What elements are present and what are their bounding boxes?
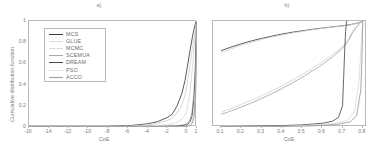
panel-b-xtick-3: 0.4	[277, 128, 284, 134]
panel-a-xlabel: CoE	[84, 136, 124, 142]
panel-a: a) Cumulative distribution function 0 0.…	[0, 0, 198, 157]
panel-a-ytick-5: 1	[14, 17, 26, 23]
legend-item-glue[interactable]: GLUE	[45, 38, 105, 45]
panel-a-xtick-6: -4	[144, 128, 149, 134]
legend-line-icon-glue	[49, 41, 63, 42]
panel-a-ytick-3: 0.6	[14, 59, 26, 65]
panel-a-ytick-1: 0.2	[14, 102, 26, 108]
panel-a-xtick-7: -2	[164, 128, 169, 134]
panel-b-xtick-6: 0.7	[338, 128, 345, 134]
panel-a-xtick-5: -6	[124, 128, 129, 134]
panel-a-xtick-1: -14	[44, 128, 52, 134]
legend-label-mcs: MCS	[66, 31, 78, 37]
panel-b-xtick-2: 0.3	[257, 128, 264, 134]
legend-item-dream[interactable]: DREAM	[45, 59, 105, 66]
legend-line-icon-acco	[49, 77, 63, 78]
legend-item-mcs[interactable]: MCS	[45, 31, 105, 38]
panel-a-title: a)	[0, 2, 198, 8]
panel-a-xtick-0: -16	[24, 128, 32, 134]
panel-b-xtick-4: 0.5	[297, 128, 304, 134]
legend: MCS GLUE MCMC SCEMUA DREAM PSO	[44, 28, 106, 82]
panel-a-xtick-4: -8	[105, 128, 110, 134]
legend-label-glue: GLUE	[66, 38, 81, 44]
legend-label-acco: ACCO	[66, 74, 82, 80]
legend-line-icon-dream	[49, 62, 63, 63]
figure-cdf-coe: a) Cumulative distribution function 0 0.…	[0, 0, 376, 157]
legend-item-scemua[interactable]: SCEMUA	[45, 52, 105, 59]
legend-item-acco[interactable]: ACCO	[45, 74, 105, 81]
panel-a-xtick-2: -12	[64, 128, 72, 134]
panel-b-plot-area	[212, 20, 366, 126]
panel-b-xtick-7: 0.8	[358, 128, 365, 134]
legend-label-scemua: SCEMUA	[66, 52, 90, 58]
panel-a-ytick-4: 0.8	[14, 38, 26, 44]
legend-item-pso[interactable]: PSO	[45, 67, 105, 74]
panel-a-xtick-9: 1	[194, 128, 197, 134]
panel-a-xtick-3: -10	[84, 128, 92, 134]
legend-label-mcmc: MCMC	[66, 45, 83, 51]
panel-b-curves	[213, 21, 367, 127]
panel-a-xtick-8: 0	[185, 128, 188, 134]
legend-line-icon-scemua	[49, 55, 63, 56]
legend-line-icon-mcs	[49, 34, 63, 35]
panel-b-xlabel: CoE	[269, 136, 309, 142]
panel-b: b) 0.1 0.2 0.3 0.4 0.5	[198, 0, 376, 157]
panel-b-xtick-0: 0.1	[216, 128, 223, 134]
panel-b-xtick-1: 0.2	[237, 128, 244, 134]
legend-line-icon-pso	[49, 70, 63, 71]
legend-line-icon-mcmc	[49, 48, 63, 49]
legend-label-pso: PSO	[66, 67, 78, 73]
panel-a-ytick-2: 0.4	[14, 81, 26, 87]
panel-b-title: b)	[198, 2, 376, 8]
legend-item-mcmc[interactable]: MCMC	[45, 45, 105, 52]
legend-label-dream: DREAM	[66, 59, 86, 65]
panel-b-xtick-5: 0.6	[318, 128, 325, 134]
